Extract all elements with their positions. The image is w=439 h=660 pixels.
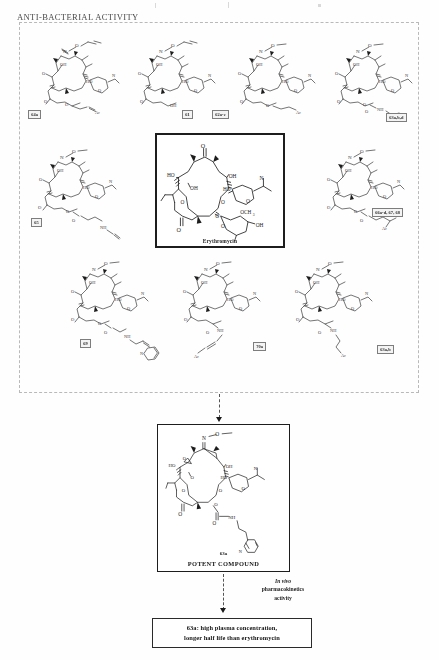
- arrow-to-potent-compound: [219, 394, 220, 418]
- svg-text:N: N: [356, 49, 360, 54]
- svg-text:OH: OH: [256, 222, 264, 228]
- structure-drawing: N O N HO O O: [328, 36, 420, 118]
- in-vivo-annotation: In vivo pharmacokinetics activity: [228, 577, 338, 602]
- svg-text:O: O: [38, 205, 42, 210]
- svg-text:O: O: [183, 289, 186, 294]
- compound-label-64a: 64a: [28, 110, 41, 119]
- svg-text:O: O: [140, 99, 144, 104]
- potent-compound-caption: POTENT COMPOUND: [158, 560, 289, 567]
- svg-text:N: N: [405, 73, 409, 78]
- svg-text:HO: HO: [86, 79, 92, 84]
- structure-drawing: N O: [28, 36, 126, 114]
- svg-text:OH: OH: [229, 173, 237, 179]
- svg-text:N: N: [109, 179, 113, 184]
- svg-text:NH: NH: [124, 334, 131, 339]
- svg-text:O: O: [178, 511, 182, 517]
- svg-text:N: N: [141, 291, 145, 296]
- svg-text:OH: OH: [89, 280, 96, 285]
- svg-text:O: O: [295, 289, 298, 294]
- erythromycin-core-box: O HO OH OH O O: [155, 133, 285, 248]
- svg-text:OH: OH: [170, 103, 177, 108]
- svg-text:O: O: [104, 261, 108, 266]
- structure-64a: N O: [28, 36, 126, 114]
- svg-text:OH: OH: [201, 280, 208, 285]
- svg-text:O: O: [182, 488, 186, 493]
- svg-text:O: O: [194, 88, 197, 93]
- svg-text:HO: HO: [83, 185, 89, 190]
- svg-text:3: 3: [253, 213, 255, 217]
- svg-text:HO: HO: [223, 186, 231, 192]
- svg-text:OCH: OCH: [240, 209, 251, 215]
- page-title: ANTI-BACTERIAL ACTIVITY: [17, 12, 139, 22]
- svg-text:HO: HO: [379, 79, 385, 84]
- svg-text:OH: OH: [256, 62, 263, 67]
- svg-text:O: O: [75, 43, 79, 48]
- svg-text:Ar: Ar: [194, 354, 199, 359]
- svg-text:N: N: [208, 73, 212, 78]
- svg-text:OH: OH: [156, 62, 163, 67]
- svg-text:O: O: [95, 194, 98, 199]
- svg-text:O: O: [294, 88, 297, 93]
- svg-text:NH: NH: [330, 328, 337, 333]
- svg-text:N: N: [365, 291, 369, 296]
- svg-text:O: O: [239, 306, 242, 311]
- svg-text:O: O: [98, 88, 101, 93]
- svg-text:O: O: [327, 177, 330, 182]
- svg-text:NH: NH: [217, 328, 224, 333]
- svg-text:N: N: [63, 49, 67, 54]
- result-line-2: longer half life than erythromycin: [184, 633, 280, 643]
- svg-text:O: O: [138, 71, 141, 76]
- svg-text:O: O: [383, 194, 386, 199]
- svg-text:HO: HO: [227, 297, 233, 302]
- compound-label-62a-c: 62a-c: [212, 110, 229, 119]
- svg-text:O: O: [246, 198, 250, 204]
- svg-text:N: N: [204, 267, 208, 272]
- svg-text:N: N: [308, 73, 312, 78]
- svg-text:OH: OH: [60, 62, 67, 67]
- result-box: 63a: high plasma concentration, longer h…: [152, 618, 312, 648]
- svg-text:O: O: [221, 223, 225, 229]
- structure-63abd: N O N HO O O: [328, 36, 420, 118]
- svg-text:HO: HO: [167, 172, 175, 178]
- svg-text:O: O: [65, 102, 69, 107]
- scan-artifacts: [0, 2, 439, 10]
- structure-63ab: N O N HO O O: [286, 256, 382, 361]
- svg-text:O: O: [66, 209, 69, 214]
- in-vivo-line1: In vivo: [275, 578, 291, 584]
- svg-text:N: N: [112, 73, 116, 78]
- compound-label-69: 69: [80, 339, 91, 348]
- svg-text:N: N: [254, 466, 258, 471]
- compound-label-61: 61: [182, 110, 193, 119]
- compound-label-70a: 70a: [253, 342, 266, 351]
- svg-text:OH: OH: [353, 62, 360, 67]
- svg-text:O: O: [177, 227, 182, 233]
- svg-text:N: N: [348, 155, 352, 160]
- svg-text:N: N: [316, 267, 320, 272]
- svg-text:NH: NH: [228, 515, 236, 520]
- svg-text:OH: OH: [345, 168, 352, 173]
- svg-text:O: O: [354, 209, 357, 214]
- svg-text:O: O: [221, 199, 225, 205]
- svg-text:O: O: [318, 330, 321, 335]
- svg-text:O: O: [214, 502, 218, 507]
- compound-label-63abd: 63a,b,d: [386, 113, 407, 122]
- compound-label-63ab: 63a,b: [377, 345, 394, 354]
- svg-text:O: O: [363, 102, 366, 107]
- svg-text:O: O: [242, 486, 246, 491]
- svg-text:O: O: [238, 71, 241, 76]
- svg-text:HO: HO: [371, 185, 377, 190]
- compound-label-65: 65: [31, 218, 42, 227]
- svg-text:OH: OH: [226, 464, 233, 469]
- svg-text:NH: NH: [100, 225, 107, 230]
- svg-text:N: N: [159, 49, 163, 54]
- structure-61: N O N HO O OH O: [128, 36, 220, 114]
- structure-65: N O N HO O O: [28, 144, 126, 240]
- figure-page: ANTI-BACTERIAL ACTIVITY N O: [0, 0, 439, 660]
- erythromycin-caption: Erythromycin: [157, 238, 283, 244]
- potent-compound-box: N O HO O OH O: [157, 424, 290, 572]
- result-line-1: 63a: high plasma concentration,: [187, 623, 277, 633]
- svg-text:O: O: [328, 261, 332, 266]
- structure-62a-c: N O N HO O O: [228, 36, 324, 114]
- svg-text:OH: OH: [190, 185, 198, 191]
- structure-drawing: N O N HO O O: [62, 256, 160, 366]
